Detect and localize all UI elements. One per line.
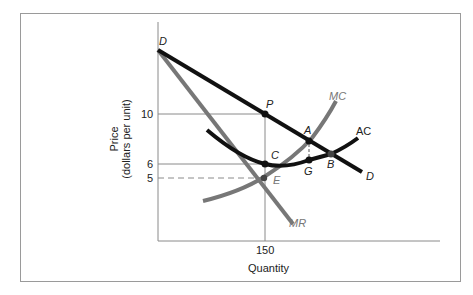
label-AC: AC bbox=[356, 125, 371, 137]
label-MR: MR bbox=[289, 217, 306, 229]
y-tick-10: 10 bbox=[141, 108, 153, 120]
label-MC: MC bbox=[329, 90, 346, 102]
x-axis-label: Quantity bbox=[248, 262, 289, 274]
label-C: C bbox=[271, 149, 279, 161]
label-E: E bbox=[273, 174, 281, 186]
label-A: A bbox=[303, 124, 311, 136]
y-axis-label-line1: Price bbox=[108, 126, 120, 151]
ac-curve bbox=[207, 130, 358, 166]
y-tick-5: 5 bbox=[147, 172, 153, 184]
point-P bbox=[262, 111, 269, 118]
monopoly-diagram: D D MR MC AC P A C E G B 10 6 5 150 Quan… bbox=[0, 0, 473, 295]
point-C bbox=[262, 161, 269, 168]
label-G: G bbox=[304, 165, 313, 177]
point-E bbox=[261, 175, 267, 181]
label-P: P bbox=[266, 98, 274, 110]
point-B bbox=[328, 151, 335, 158]
label-B: B bbox=[327, 158, 334, 170]
label-D-top: D bbox=[159, 35, 167, 47]
point-A bbox=[306, 138, 313, 145]
y-axis-label-line2: (dollars per unit) bbox=[120, 99, 132, 178]
y-tick-6: 6 bbox=[147, 158, 153, 170]
point-G bbox=[306, 157, 313, 164]
label-D-end: D bbox=[366, 170, 374, 182]
mr-curve bbox=[158, 50, 293, 224]
x-tick-150: 150 bbox=[256, 244, 274, 256]
